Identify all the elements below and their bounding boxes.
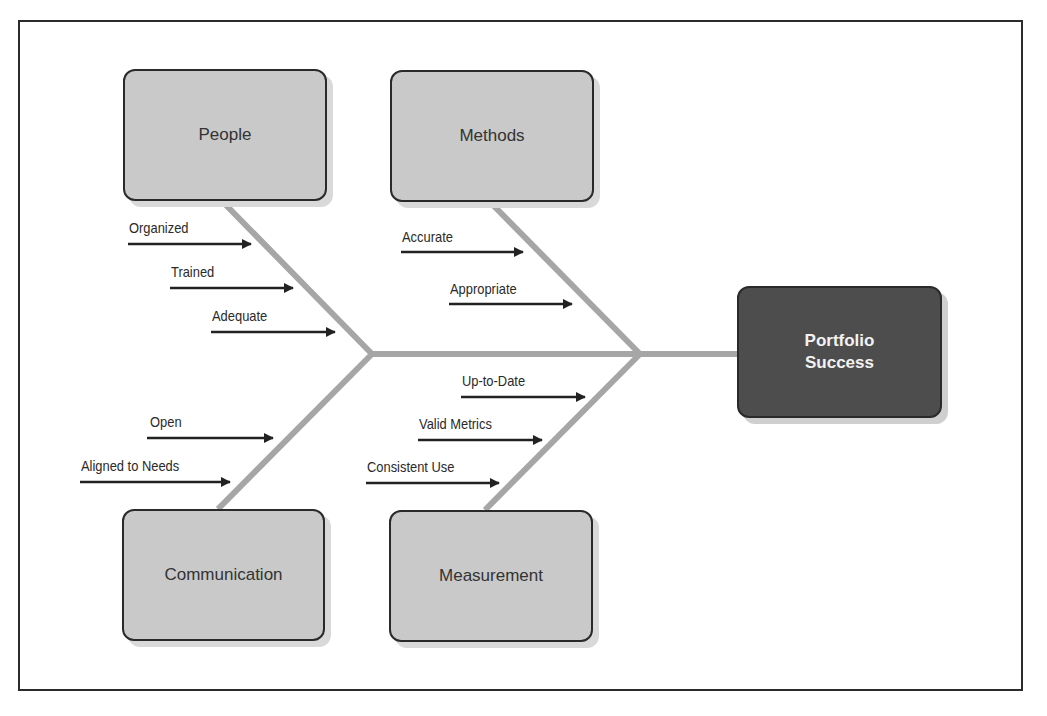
cause-label: Adequate xyxy=(212,307,267,324)
cause-label: Aligned to Needs xyxy=(81,457,179,474)
category-box-communication: Communication xyxy=(122,509,325,641)
bone-communication xyxy=(218,354,372,509)
cause-label: Valid Metrics xyxy=(419,415,492,432)
effect-box: Portfolio Success xyxy=(737,286,942,418)
category-box-people: People xyxy=(123,69,327,201)
cause-label: Trained xyxy=(171,263,214,280)
category-label-methods: Methods xyxy=(459,126,524,146)
category-box-measurement: Measurement xyxy=(389,510,593,642)
cause-label: Open xyxy=(150,413,182,430)
category-label-measurement: Measurement xyxy=(439,566,543,586)
category-label-people: People xyxy=(199,125,252,145)
bone-methods xyxy=(490,202,640,354)
cause-label: Organized xyxy=(129,219,189,236)
category-label-communication: Communication xyxy=(164,565,282,585)
category-box-methods: Methods xyxy=(390,70,594,202)
cause-label: Consistent Use xyxy=(367,458,454,475)
effect-label: Portfolio Success xyxy=(805,330,875,374)
cause-label: Accurate xyxy=(402,228,453,245)
cause-label: Appropriate xyxy=(450,280,517,297)
cause-label: Up-to-Date xyxy=(462,372,525,389)
